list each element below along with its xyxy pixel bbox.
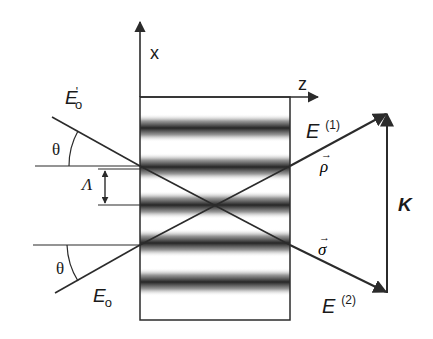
period-label: Λ xyxy=(82,176,92,193)
grating-vector-label: K xyxy=(398,195,412,214)
fringe-1 xyxy=(140,114,290,142)
diffracted-2-label: E(2) xyxy=(322,296,350,316)
z-axis-label: z xyxy=(298,75,307,93)
fringe-5 xyxy=(140,268,290,296)
x-axis-label: x xyxy=(150,44,159,62)
angle-label-upper: θ xyxy=(52,141,60,158)
rho-vector-label: →ρ xyxy=(320,157,328,177)
incident-upper-label: E'o xyxy=(65,88,87,107)
vector-arrow-icon: → xyxy=(321,148,332,160)
angle-arc-lower xyxy=(67,245,78,281)
angle-label-lower: θ xyxy=(56,260,64,277)
diffracted-1-label: E(1) xyxy=(306,121,334,141)
diffracted-beam-2 xyxy=(290,245,386,292)
incident-lower-label: Eo xyxy=(93,286,113,305)
angle-arc-upper xyxy=(69,131,78,166)
grating-diagram xyxy=(0,0,433,339)
incident-beam-upper xyxy=(52,117,140,166)
vector-arrow-icon: → xyxy=(319,231,330,243)
fringe-2 xyxy=(140,153,290,181)
sigma-vector-label: →σ xyxy=(318,240,326,260)
